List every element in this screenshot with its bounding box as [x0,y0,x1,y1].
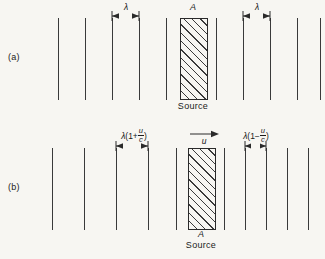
fraction-denominator: c [260,136,265,144]
wavefront-line [166,18,167,100]
wavefront-line [270,18,271,100]
wavefront-line [224,148,225,230]
source-caption: Source [164,240,238,250]
source-caption: Source [156,101,230,111]
wavefront-line [243,18,244,100]
wavefront-line [84,148,85,230]
formula-open: (1+ [125,131,138,141]
formula-open: (1− [247,131,260,141]
wavelength-label-right: λ [244,2,270,12]
fraction-denominator: c [138,136,143,144]
wavefront-line [52,148,53,230]
wavelength-label-left: λ(1+uc) [103,127,165,143]
source-block [180,18,208,100]
source-block [188,148,216,230]
doppler-effect-figure: (a) A Source λ λ (b) [0,0,325,259]
wavefront-line [216,18,217,100]
wavefront-line [148,148,149,230]
wavefront-line [112,18,113,100]
source-marker-a: A [180,2,206,12]
wavefront-line [85,18,86,100]
wavefront-line [245,148,246,230]
wavelength-label-left: λ [113,2,139,12]
wavefront-line [320,18,321,100]
wavefront-line [139,18,140,100]
wavefront-line [297,18,298,100]
source-marker-a: A [188,229,214,239]
panel-b-label: (b) [8,182,20,192]
wavelength-label-right: λ(1−uc) [225,127,287,143]
wavefront-line [266,148,267,230]
wavefront-line [176,148,177,230]
fraction-u-over-c: uc [260,127,265,143]
dimension-arrows-right [241,11,273,21]
wavefront-line [287,148,288,230]
dimension-arrows-left [110,11,142,21]
wavefront-line [308,148,309,230]
formula-close: ) [266,131,269,141]
formula-close: ) [144,131,147,141]
velocity-label: u [190,136,218,146]
wavefront-line [58,18,59,100]
wavefront-line [116,148,117,230]
panel-a-label: (a) [8,52,20,62]
fraction-u-over-c: uc [138,127,143,143]
